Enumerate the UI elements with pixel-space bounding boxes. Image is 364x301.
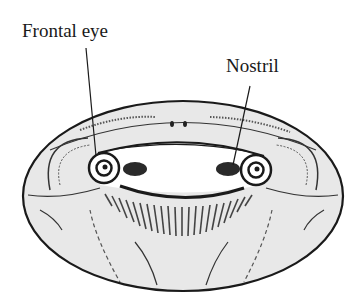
- frontal-eye-label: Frontal eye: [22, 20, 108, 42]
- left-frontal-eye: [89, 153, 119, 183]
- right-nostril: [216, 162, 240, 176]
- right-frontal-eye: [241, 155, 271, 185]
- head-illustration: [0, 0, 364, 301]
- head-outline: [23, 101, 343, 291]
- nostril-label: Nostril: [226, 55, 279, 77]
- left-nostril: [123, 162, 147, 176]
